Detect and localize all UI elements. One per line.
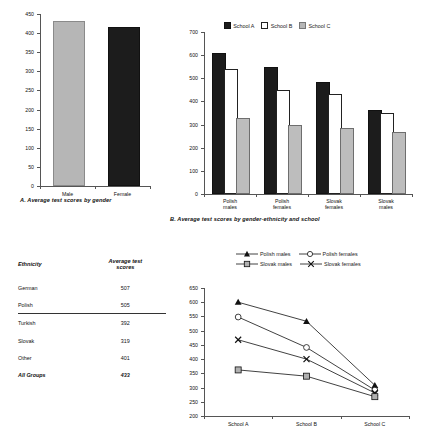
table-row: Other401 [18, 349, 166, 366]
y-tick-label: 400 [178, 98, 198, 104]
cell-ethnicity: Other [18, 349, 85, 366]
legend-row: Slovak malesSlovak females [236, 260, 361, 268]
legend-label: School A [233, 23, 254, 29]
x-label-line2: males [206, 204, 254, 210]
cell-ethnicity: Turkish [18, 314, 85, 332]
y-tick-label: 100 [14, 145, 34, 151]
bar-female [108, 27, 140, 186]
y-tick-label: 300 [178, 122, 198, 128]
bar-male [53, 21, 85, 186]
legend-swatch [261, 22, 268, 29]
chart-b-plot-area: 0100200300400500600700PolishmalesPolishf… [204, 32, 412, 194]
legend-label: School C [308, 23, 330, 29]
legend-swatch [224, 22, 231, 29]
chart-b-scores-by-gender-ethnicity-and-school: School ASchool BSchool C 010020030040050… [168, 8, 433, 240]
cell-ethnicity: German [18, 279, 85, 296]
legend-item-school-a: School A [224, 22, 254, 29]
x-tick [256, 194, 257, 197]
legend-label: Slovak females [324, 261, 361, 267]
point-slovak-males-1 [304, 373, 310, 379]
x-tick [409, 416, 410, 419]
legend-item-polish-males: Polish males [236, 250, 291, 258]
y-tick-label: 350 [178, 370, 198, 376]
x-label-line2: females [310, 204, 358, 210]
x-label-slovak-males: Slovakmales [362, 198, 410, 210]
legend-item-school-b: School B [261, 22, 292, 29]
legend-label: Polish females [323, 251, 358, 257]
y-tick-label: 500 [178, 75, 198, 81]
chart-c-series-layer [204, 288, 409, 416]
x-tick [272, 416, 273, 419]
chart-b-caption: B. Average test scores by gender-ethnici… [170, 216, 320, 222]
y-tick-label: 400 [178, 356, 198, 362]
x-tick [308, 194, 309, 197]
y-tick-label: 650 [178, 285, 198, 291]
y-tick [37, 129, 40, 130]
x-tick [95, 186, 96, 189]
y-tick [201, 78, 204, 79]
cell-score: 401 [85, 349, 166, 366]
cell-score: 392 [85, 314, 166, 332]
legend-swatch [299, 22, 306, 29]
y-tick [37, 52, 40, 53]
legend-label: Slovak males [260, 261, 292, 267]
table-header-line2: scores [85, 264, 166, 270]
table-row: Polish505 [18, 296, 166, 314]
x-tick [204, 416, 205, 419]
series-polish-females [235, 314, 377, 393]
chart-c-scores-by-school-line: Polish malesPolish femalesSlovak malesSl… [168, 246, 433, 441]
x-tick [150, 186, 151, 189]
y-tick-label: 200 [178, 145, 198, 151]
y-axis [40, 14, 41, 186]
y-tick-label: 450 [178, 342, 198, 348]
legend-item-school-c: School C [299, 22, 330, 29]
y-tick [37, 167, 40, 168]
chart-c-plot-area: 200250300350400450500550600650School ASc… [204, 288, 409, 416]
y-tick-label: 0 [178, 191, 198, 197]
y-tick-label: 150 [14, 126, 34, 132]
bar-slovak-males-school-c [392, 132, 406, 194]
chart-c-legend: Polish malesPolish femalesSlovak malesSl… [236, 250, 361, 271]
x-label-slovak-females: Slovakfemales [310, 198, 358, 210]
x-tick [204, 194, 205, 197]
y-tick-label: 550 [178, 313, 198, 319]
x-label-school-a: School A [213, 421, 263, 427]
y-axis [204, 32, 205, 194]
point-polish-females-0 [235, 314, 241, 320]
y-tick-label: 600 [178, 52, 198, 58]
x-axis [204, 416, 409, 417]
table-header-ethnicity: Ethnicity [18, 258, 85, 279]
y-tick [201, 32, 204, 33]
table: Ethnicity Average test scores German507P… [18, 258, 166, 384]
y-tick [201, 101, 204, 102]
chart-b-legend: School ASchool BSchool C [224, 22, 330, 29]
y-tick-label: 450 [14, 11, 34, 17]
cell-ethnicity: All Groups [18, 366, 85, 383]
y-tick-label: 200 [14, 107, 34, 113]
y-tick-label: 300 [14, 68, 34, 74]
bar-slovak-females-school-c [340, 128, 354, 194]
cell-score: 319 [85, 332, 166, 349]
x-tick [412, 194, 413, 197]
y-tick-label: 200 [178, 413, 198, 419]
y-tick-label: 0 [14, 183, 34, 189]
table-header-row: Ethnicity Average test scores [18, 258, 166, 279]
y-tick-label: 400 [14, 30, 34, 36]
y-tick-label: 250 [14, 87, 34, 93]
y-tick [201, 148, 204, 149]
x-label-polish-females: Polishfemales [258, 198, 306, 210]
x-label-school-b: School B [282, 421, 332, 427]
y-tick [37, 33, 40, 34]
point-polish-males-0 [235, 299, 242, 305]
legend-row: Polish malesPolish females [236, 250, 361, 258]
bar-polish-males-school-c [236, 118, 250, 194]
point-polish-females-1 [304, 345, 310, 351]
table-row: Turkish392 [18, 314, 166, 332]
y-tick [37, 14, 40, 15]
series-slovak-males [235, 367, 378, 400]
cell-score: 433 [85, 366, 166, 383]
legend-item-slovak-males: Slovak males [236, 260, 292, 268]
y-tick [37, 110, 40, 111]
y-tick [201, 125, 204, 126]
y-tick-label: 350 [14, 49, 34, 55]
